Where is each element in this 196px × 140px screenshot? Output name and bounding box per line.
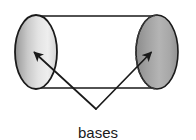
right-base xyxy=(136,15,178,89)
bases-label: bases xyxy=(78,124,118,140)
left-base-ellipse xyxy=(15,15,57,89)
left-base xyxy=(15,15,57,89)
cylinder-bases-figure: bases xyxy=(0,0,196,140)
cylinder-diagram-svg: bases xyxy=(0,0,196,140)
